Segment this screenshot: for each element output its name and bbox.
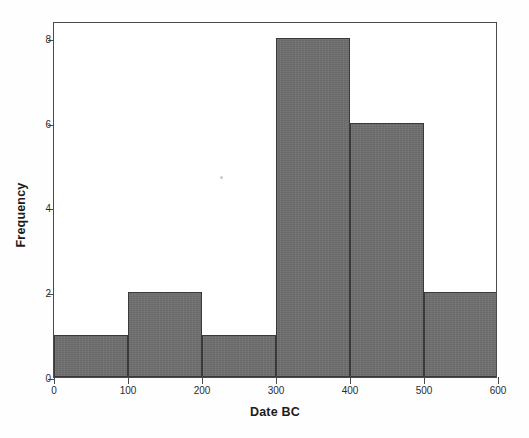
x-tick-mark [202,377,203,384]
x-tick-mark [54,377,55,384]
histogram-bar [54,335,128,377]
histogram-bar [276,38,350,377]
scan-speck [220,176,223,179]
x-tick-mark [498,377,499,384]
histogram-bar [350,123,424,377]
x-tick-label: 400 [342,386,359,396]
x-tick-mark [276,377,277,384]
y-axis-title: Frequency [10,155,30,275]
y-tick-label: 6 [45,120,51,130]
x-tick-mark [350,377,351,384]
x-tick-mark [128,377,129,384]
y-tick-label: 0 [45,374,51,384]
x-tick-label: 300 [268,386,285,396]
plot-area [54,23,496,377]
histogram-bar [424,292,496,377]
y-tick-label: 4 [45,204,51,214]
x-axis-title: Date BC [53,405,497,419]
chart-figure: 02468 0100200300400500600 Date BC Freque… [0,0,529,438]
y-tick-label: 2 [45,289,51,299]
x-tick-label: 0 [51,386,57,396]
x-tick-label: 500 [416,386,433,396]
x-tick-label: 200 [194,386,211,396]
x-tick-label: 100 [120,386,137,396]
histogram-bar [128,292,202,377]
x-tick-label: 600 [490,386,507,396]
y-tick-label: 8 [45,35,51,45]
histogram-bar [202,335,276,377]
plot-frame: 02468 0100200300400500600 [53,22,497,378]
y-axis-title-text: Frequency [13,182,27,247]
x-tick-mark [424,377,425,384]
